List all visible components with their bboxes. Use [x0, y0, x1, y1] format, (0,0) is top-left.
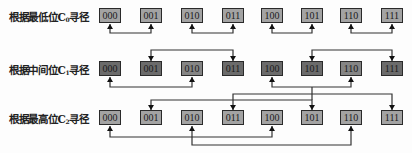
link-010-011 [192, 24, 233, 33]
node-c2-001: 001 [140, 110, 162, 125]
link-000-001 [110, 24, 151, 33]
node-c1-110: 110 [340, 61, 362, 76]
node-c1-101: 101 [301, 61, 323, 76]
node-c1-011: 011 [222, 61, 244, 76]
link-100-101 [272, 24, 312, 33]
node-c2-111: 111 [381, 110, 403, 125]
node-c1-000: 000 [99, 61, 121, 76]
node-c0-101: 101 [301, 8, 323, 23]
node-c1-111: 111 [381, 61, 403, 76]
row-label-c1: 根据中间位C1寻径 [9, 62, 89, 77]
node-c0-000: 000 [99, 8, 121, 23]
row-label-c0: 根据最低位C0寻径 [9, 9, 89, 24]
node-c2-110: 110 [340, 110, 362, 125]
node-c1-010: 010 [181, 61, 203, 76]
node-c0-110: 110 [340, 8, 362, 23]
node-c1-001: 001 [140, 61, 162, 76]
routing-diagram: 根据最低位C0寻径 根据中间位C1寻径 根据最高位C2寻径 000 001 01… [0, 0, 412, 153]
link-000-010 [110, 77, 192, 87]
node-c1-100: 100 [261, 61, 283, 76]
row-label-c2: 根据最高位C2寻径 [9, 111, 89, 126]
link-000-100 [110, 126, 272, 137]
node-c2-010: 010 [181, 110, 203, 125]
link-101-111 [312, 50, 392, 61]
node-c0-100: 100 [261, 8, 283, 23]
node-c0-010: 010 [181, 8, 203, 23]
node-c2-100: 100 [261, 110, 283, 125]
node-c0-001: 001 [140, 8, 162, 23]
link-110-111 [351, 24, 392, 33]
node-c2-101: 101 [301, 110, 323, 125]
node-c2-011: 011 [222, 110, 244, 125]
node-c2-000: 000 [99, 110, 121, 125]
node-c0-111: 111 [381, 8, 403, 23]
link-001-011 [151, 50, 233, 61]
node-c0-011: 011 [222, 8, 244, 23]
link-100-110 [272, 77, 351, 87]
